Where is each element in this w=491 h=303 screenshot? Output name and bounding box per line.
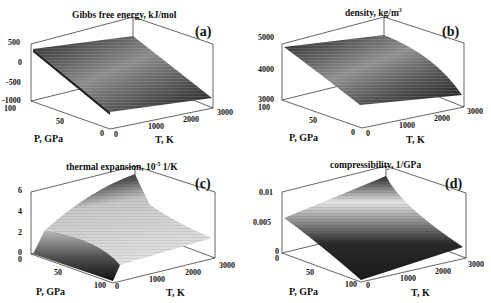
plot-title-c-tail: 1/K: [160, 162, 177, 172]
p-tick-b-2: 0: [351, 128, 355, 137]
t-tick-c-3: 3000: [219, 261, 235, 270]
p-tick-b-1: 50: [309, 116, 317, 125]
t-axis-label-c: T, K: [166, 287, 185, 298]
t-tick-c-2: 2000: [185, 268, 201, 277]
t-tick-d-0: 0: [366, 281, 370, 290]
t-tick-c-0: 0: [115, 282, 119, 291]
t-tick-b-0: 0: [366, 129, 370, 138]
t-tick-b-2: 2000: [434, 114, 450, 123]
p-tick-d-0: 0: [275, 254, 279, 263]
panel-b: density, kg/m3 (b) 5000 4000 3000 100 50…: [245, 0, 490, 151]
z-tick-b-1: 4000: [258, 65, 274, 74]
panel-label-c: (c): [195, 176, 211, 192]
p-tick-d-1: 50: [306, 268, 314, 277]
surface-plot-a: [0, 0, 245, 151]
z-tick-c-2: 2: [18, 228, 22, 237]
p-tick-c-2: 100: [94, 281, 106, 290]
panel-label-d: (d): [445, 176, 462, 192]
panel-d: compressibility, 1/GPa (d) 0.01 0.005 0 …: [245, 150, 490, 301]
t-tick-c-1: 1000: [149, 275, 165, 284]
p-axis-label-c: P, GPa: [36, 286, 65, 297]
z-tick-c-0: 6: [18, 186, 22, 195]
p-tick-a-0: 100: [4, 104, 16, 113]
surface-plot-c: [0, 150, 245, 303]
t-axis-label-d: T, K: [411, 287, 430, 298]
panel-a: Gibbs free energy, kJ/mol (a) 500 0 -500…: [0, 0, 245, 151]
p-tick-a-1: 50: [56, 117, 64, 126]
panel-c: thermal expansion, 10-5 1/K (c) 6 4 2 0 …: [0, 150, 245, 301]
plot-title-a: Gibbs free energy, kJ/mol: [72, 10, 176, 20]
t-tick-d-3: 3000: [468, 260, 484, 269]
plot-title-d: compressibility, 1/GPa: [330, 160, 421, 170]
panel-label-a: (a): [195, 24, 211, 40]
t-tick-a-1: 1000: [148, 122, 164, 131]
plot-title-c: thermal expansion, 10-5 1/K: [66, 161, 178, 172]
z-tick-d-0: 0.01: [259, 188, 273, 197]
p-axis-label-b: P, GPa: [289, 132, 318, 143]
p-tick-d-2: 100: [345, 280, 357, 289]
z-tick-a-0: 500: [8, 38, 20, 47]
t-tick-d-2: 2000: [435, 267, 451, 276]
p-axis-label-a: P, GPa: [34, 133, 63, 144]
t-tick-b-1: 1000: [399, 121, 415, 130]
z-tick-b-0: 5000: [258, 33, 274, 42]
t-tick-d-1: 1000: [400, 274, 416, 283]
z-tick-a-1: 0: [18, 58, 22, 67]
t-tick-a-2: 2000: [183, 115, 199, 124]
t-tick-b-3: 3000: [467, 107, 483, 116]
p-tick-a-2: 0: [100, 129, 104, 138]
panel-label-b: (b): [442, 24, 459, 40]
t-tick-a-3: 3000: [217, 108, 233, 117]
t-axis-label-b: T, K: [406, 134, 425, 145]
p-axis-label-d: P, GPa: [289, 286, 318, 297]
z-tick-a-2: -500: [6, 78, 21, 87]
t-tick-a-0: 0: [114, 130, 118, 139]
plot-title-b-text: density, kg/m: [345, 8, 399, 18]
plot-title-b: density, kg/m3: [345, 7, 402, 18]
t-axis-label-a: T, K: [155, 134, 174, 145]
p-tick-b-0: 100: [258, 103, 270, 112]
p-tick-c-1: 50: [54, 268, 62, 277]
p-tick-c-0: 0: [18, 255, 22, 264]
plot-title-b-sup: 3: [399, 7, 402, 13]
z-tick-d-1: 0.005: [253, 218, 271, 227]
z-tick-c-1: 4: [18, 207, 22, 216]
plot-title-c-text: thermal expansion, 10: [66, 162, 155, 172]
